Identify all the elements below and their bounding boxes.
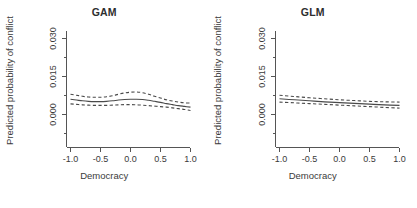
x-tick-label-glm: 0.0 (333, 154, 346, 164)
y-tick-label-gam: 0.030 (48, 27, 58, 50)
figure-two-panel-plot: GAM Predicted probability of conflict 0.… (0, 0, 417, 208)
y-tick-label-glm: 0.030 (257, 27, 267, 50)
x-axis-label-gam: Democracy (0, 170, 209, 181)
x-tick-label-gam: -0.5 (93, 154, 109, 164)
x-axis-label-glm: Democracy (209, 170, 417, 181)
y-tick-label-gam: 0.015 (48, 65, 58, 88)
x-tick-label-gam: 0.0 (124, 154, 137, 164)
y-tick-label-gam: 0.000 (48, 103, 58, 126)
y-tick-label-glm: 0.000 (257, 103, 267, 126)
gam-fit-curve (71, 99, 191, 107)
x-tick-label-glm: 1.0 (393, 154, 406, 164)
x-tick-label-glm: -1.0 (271, 154, 287, 164)
x-tick-label-gam: -1.0 (63, 154, 79, 164)
glm-upper-ci-curve (279, 95, 399, 102)
panel-gam: GAM Predicted probability of conflict 0.… (0, 0, 209, 208)
x-tick-label-gam: 1.0 (184, 154, 197, 164)
x-tick-label-gam: 0.5 (154, 154, 167, 164)
panel-glm: GLM Predicted probability of conflict 0.… (209, 0, 417, 208)
x-tick-label-glm: 0.5 (363, 154, 376, 164)
y-tick-label-glm: 0.015 (257, 65, 267, 88)
x-tick-label-glm: -0.5 (301, 154, 317, 164)
